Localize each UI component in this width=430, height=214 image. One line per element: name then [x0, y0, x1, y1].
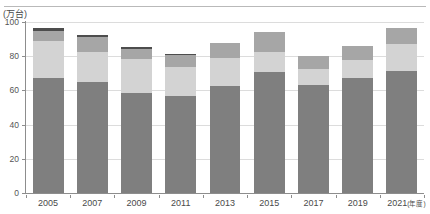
x-axis-tick-label-2021: 2021(年度) — [387, 198, 425, 209]
bar-segment-seg2 — [298, 69, 329, 85]
bar-segment-seg2 — [210, 58, 241, 86]
x-axis-tick-label-2015: 2015 — [259, 198, 279, 209]
bar-2005[interactable] — [33, 22, 64, 193]
bar-segment-seg2 — [121, 59, 152, 93]
bar-segment-seg4 — [77, 35, 108, 38]
bar-segment-seg2 — [254, 52, 285, 73]
bar-2017[interactable] — [298, 22, 329, 193]
x-axis-tick-mark — [424, 195, 425, 198]
bar-segment-seg3 — [165, 55, 196, 67]
y-axis-tick-label: 60 — [0, 86, 19, 95]
x-axis-tick-label-2009: 2009 — [127, 198, 147, 209]
chart-figure: (万台) 020406080100 2005200720092011201320… — [0, 0, 430, 214]
gridline — [26, 193, 424, 194]
plot-area: 020406080100 — [26, 22, 424, 193]
bar-segment-seg1 — [121, 93, 152, 193]
bar-segment-seg1 — [298, 85, 329, 193]
y-axis-tick-label: 100 — [0, 18, 19, 27]
x-axis-tick-mark — [70, 195, 71, 198]
bar-2013[interactable] — [210, 22, 241, 193]
bar-segment-seg2 — [77, 52, 108, 82]
bar-2021[interactable] — [386, 22, 417, 193]
bar-segment-seg1 — [165, 96, 196, 193]
x-axis-tick-label-2019: 2019 — [348, 198, 368, 209]
bar-segment-seg3 — [77, 37, 108, 52]
x-axis-tick-mark — [247, 195, 248, 198]
bar-segment-seg4 — [121, 47, 152, 49]
bar-segment-seg3 — [121, 49, 152, 59]
bar-segment-seg3 — [386, 28, 417, 44]
x-axis-tick-label-2007: 2007 — [82, 198, 102, 209]
bar-segment-seg3 — [33, 31, 64, 41]
x-axis-tick-label-2017: 2017 — [303, 198, 323, 209]
x-axis-tick-label-2005: 2005 — [38, 198, 58, 209]
bar-2007[interactable] — [77, 22, 108, 193]
bar-series-layer — [26, 22, 424, 193]
y-axis-tick-label: 40 — [0, 121, 19, 130]
y-axis-tick-mark — [22, 193, 26, 194]
bar-segment-seg4 — [33, 28, 64, 31]
top-divider — [4, 6, 426, 7]
x-axis-tick-mark — [114, 195, 115, 198]
y-axis-tick-label: 0 — [0, 189, 19, 198]
y-axis-tick-label: 20 — [0, 155, 19, 164]
bar-2019[interactable] — [342, 22, 373, 193]
x-axis-tick-mark — [159, 195, 160, 198]
bar-segment-seg1 — [386, 71, 417, 193]
bar-segment-seg2 — [33, 41, 64, 79]
x-axis-tick-mark — [291, 195, 292, 198]
bar-segment-seg2 — [386, 44, 417, 71]
x-axis-unit-suffix: (年度) — [407, 200, 425, 207]
bar-segment-seg1 — [210, 86, 241, 193]
bar-segment-seg3 — [210, 43, 241, 58]
bar-segment-seg4 — [165, 54, 196, 55]
bar-segment-seg3 — [254, 32, 285, 52]
x-axis-tick-label-2011: 2011 — [171, 198, 190, 209]
bar-segment-seg2 — [342, 60, 373, 77]
bar-segment-seg3 — [298, 56, 329, 69]
bar-segment-seg2 — [165, 67, 196, 95]
bar-segment-seg1 — [342, 78, 373, 193]
bar-segment-seg1 — [254, 72, 285, 193]
bar-2009[interactable] — [121, 22, 152, 193]
bar-segment-seg1 — [77, 82, 108, 193]
bar-2015[interactable] — [254, 22, 285, 193]
x-axis-labels: 200520072009201120132015201720192021(年度) — [26, 195, 424, 211]
x-axis-tick-mark — [336, 195, 337, 198]
x-axis-tick-mark — [203, 195, 204, 198]
y-axis-tick-label: 80 — [0, 52, 19, 61]
x-axis-tick-mark — [26, 195, 27, 198]
x-axis-tick-mark — [380, 195, 381, 198]
bar-segment-seg1 — [33, 78, 64, 193]
bar-2011[interactable] — [165, 22, 196, 193]
x-axis-tick-label-2013: 2013 — [215, 198, 235, 209]
bar-segment-seg3 — [342, 46, 373, 61]
